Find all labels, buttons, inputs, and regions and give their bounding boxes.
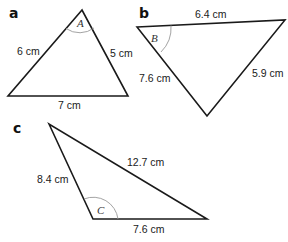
side-c-hypotenuse: 12.7 cm	[127, 156, 165, 168]
angle-c-label: C	[97, 204, 105, 216]
triangle-a: a A 6 cm 5 cm 7 cm	[8, 5, 133, 111]
side-a-left: 6 cm	[17, 45, 40, 57]
part-label-b: b	[139, 5, 149, 21]
side-c-left: 8.4 cm	[37, 173, 69, 185]
angle-b-arc	[161, 26, 171, 53]
triangle-c: c C 8.4 cm 12.7 cm 7.6 cm	[13, 120, 207, 235]
triangles-diagram: a A 6 cm 5 cm 7 cm b B 6.4 cm 7.6 cm 5.9…	[0, 0, 288, 242]
triangle-b: b B 6.4 cm 7.6 cm 5.9 cm	[137, 5, 285, 116]
angle-b-label: B	[151, 32, 158, 44]
triangle-c-shape	[49, 124, 207, 219]
side-c-bottom: 7.6 cm	[133, 223, 165, 235]
part-label-a: a	[9, 5, 18, 21]
side-a-bottom: 7 cm	[58, 99, 81, 111]
side-b-left: 7.6 cm	[139, 72, 171, 84]
part-label-c: c	[13, 120, 21, 136]
side-b-top: 6.4 cm	[195, 8, 227, 20]
side-b-right: 5.9 cm	[252, 67, 284, 79]
angle-a-label: A	[76, 17, 84, 29]
side-a-right: 5 cm	[110, 47, 133, 59]
